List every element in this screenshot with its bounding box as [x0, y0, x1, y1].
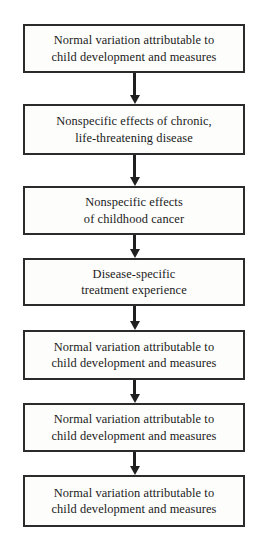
flowchart-arrow-5-6 [130, 380, 139, 403]
flowchart-node-5: Normal variation attributable to child d… [23, 330, 245, 380]
arrow-stem [133, 306, 136, 322]
flowchart-arrow-2-3 [130, 155, 139, 186]
flowchart-arrow-4-5 [130, 306, 139, 330]
flowchart-node-2-label: Nonspecific effects of chronic, life-thr… [51, 113, 217, 146]
arrow-head-icon [130, 466, 140, 475]
flowchart-node-6: Normal variation attributable to child d… [23, 403, 245, 452]
flowchart-node-5-label: Normal variation attributable to child d… [46, 339, 221, 372]
flowchart-node-3-label: Nonspecific effects of childhood cancer [79, 194, 189, 227]
arrow-head-icon [130, 177, 140, 186]
flowchart-arrow-3-4 [130, 235, 139, 258]
flowchart-node-1-label: Normal variation attributable to child d… [46, 32, 221, 65]
flowchart-node-3: Nonspecific effects of childhood cancer [23, 186, 245, 235]
arrow-stem [133, 380, 136, 395]
arrow-stem [133, 155, 136, 178]
flowchart-node-1: Normal variation attributable to child d… [23, 24, 245, 73]
arrow-head-icon [130, 95, 140, 104]
arrow-stem [133, 235, 136, 250]
flowchart-arrow-6-7 [130, 452, 139, 475]
arrow-stem [133, 452, 136, 467]
flowchart-node-4-label: Disease-specific treatment experience [76, 266, 192, 299]
arrow-stem [133, 73, 136, 96]
arrow-head-icon [130, 321, 140, 330]
flowchart-node-7-label: Normal variation attributable to child d… [46, 485, 221, 518]
flowchart-node-7: Normal variation attributable to child d… [23, 475, 245, 527]
flowchart-arrow-1-2 [130, 73, 139, 104]
flowchart-node-6-label: Normal variation attributable to child d… [46, 411, 221, 444]
flowchart-diagram: Normal variation attributable to child d… [0, 0, 259, 560]
flowchart-node-4: Disease-specific treatment experience [23, 258, 245, 306]
arrow-head-icon [130, 249, 140, 258]
arrow-head-icon [130, 394, 140, 403]
flowchart-node-2: Nonspecific effects of chronic, life-thr… [23, 104, 245, 155]
